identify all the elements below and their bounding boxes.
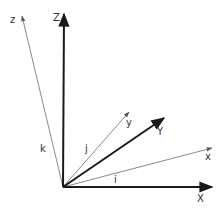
world-axis-Z (63, 14, 64, 187)
local-axis-label-x: x (205, 151, 211, 162)
local-axis-label-z: z (10, 14, 15, 25)
unit-vector-label-i: i (114, 174, 117, 185)
labels-group: xyzXYZijk (10, 12, 211, 204)
local-axis-label-y: y (126, 117, 132, 128)
unit-vector-k-arrow-icon (53, 138, 63, 187)
world-axis-label-X: X (197, 193, 204, 204)
unit-vectors-group (53, 138, 104, 187)
world-axis-label-Y: Y (156, 126, 164, 137)
local-axis-z (22, 16, 63, 187)
unit-vector-label-k: k (40, 143, 46, 154)
diagram-canvas: xyzXYZijk (0, 0, 220, 212)
unit-vector-label-j: j (84, 143, 88, 154)
local-axes-group (22, 16, 212, 187)
coordinate-frames-diagram: xyzXYZijk (0, 0, 220, 212)
world-axis-label-Z: Z (53, 12, 60, 23)
